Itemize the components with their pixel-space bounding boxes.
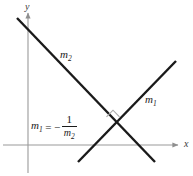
line-label-m2-base: m xyxy=(60,48,68,60)
line-label-m1: m1 xyxy=(145,94,157,108)
x-axis-label: x xyxy=(184,139,188,149)
figure-canvas xyxy=(0,0,193,176)
formula-lhs: m1 xyxy=(31,120,43,134)
formula-equals: = xyxy=(45,122,51,133)
slope-formula: m1 = − 1 m2 xyxy=(31,114,77,141)
line-label-m2-subscript: 2 xyxy=(68,54,72,63)
formula-numerator: 1 xyxy=(64,114,74,125)
formula-minus-sign: − xyxy=(54,122,60,133)
formula-lhs-base: m xyxy=(31,119,39,131)
formula-denominator-base: m xyxy=(64,127,71,138)
formula-fraction: 1 m2 xyxy=(62,114,77,141)
line-m1 xyxy=(78,61,176,162)
perpendicular-lines-figure: y x m2 m1 m1 = − 1 m2 xyxy=(0,0,193,176)
line-label-m2: m2 xyxy=(60,49,72,63)
formula-denominator-subscript: 2 xyxy=(71,132,75,141)
line-label-m1-base: m xyxy=(145,93,153,105)
line-label-m1-subscript: 1 xyxy=(153,99,157,108)
y-axis-label: y xyxy=(25,2,29,12)
formula-lhs-subscript: 1 xyxy=(39,126,43,135)
formula-denominator: m2 xyxy=(62,128,77,141)
